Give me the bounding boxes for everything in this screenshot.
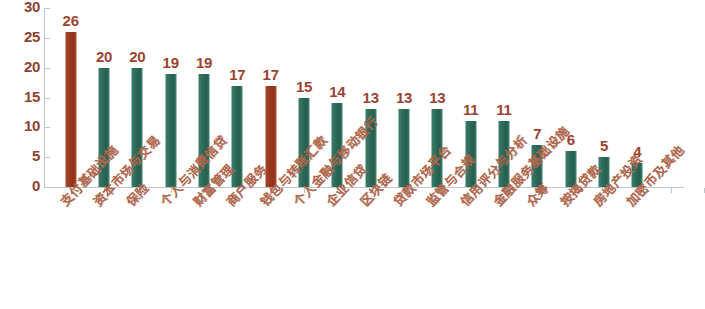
y-axis-tick-label: 5	[4, 148, 40, 164]
bar[interactable]	[398, 109, 409, 187]
bar-slot[interactable]: 11	[454, 8, 487, 187]
y-axis-tick-label: 15	[4, 89, 40, 105]
x-axis-tick-mark	[637, 188, 638, 193]
y-axis-tick-mark	[45, 187, 50, 188]
bar[interactable]	[432, 109, 443, 187]
bar[interactable]	[132, 68, 143, 187]
bar-value-label: 13	[363, 89, 379, 106]
x-axis-tick-mark	[204, 188, 205, 193]
x-axis-tick-mark	[71, 188, 72, 193]
bar[interactable]	[232, 86, 243, 187]
bar[interactable]	[332, 103, 343, 187]
bar-value-label: 20	[96, 48, 112, 65]
bar[interactable]	[298, 98, 309, 188]
bar-slot[interactable]: 6	[554, 8, 587, 187]
bar[interactable]	[632, 163, 643, 187]
x-axis-tick-mark	[671, 188, 672, 193]
x-axis-tick-mark	[237, 188, 238, 193]
bar-value-label: 13	[396, 89, 412, 106]
bar-slot[interactable]: 20	[87, 8, 120, 187]
y-axis-tick-label: 20	[4, 59, 40, 75]
bar-value-label: 17	[229, 66, 245, 83]
x-axis-tick-mark	[504, 188, 505, 193]
bar[interactable]	[65, 32, 76, 187]
x-axis-tick-mark	[137, 188, 138, 193]
x-axis-tick-mark	[604, 188, 605, 193]
x-axis-tick-mark	[304, 188, 305, 193]
bar-slot[interactable]: 13	[387, 8, 420, 187]
bar-slot[interactable]: 5	[587, 8, 620, 187]
bar-value-label: 4	[633, 143, 641, 160]
bar-value-label: 6	[567, 131, 575, 148]
y-axis-tick-label: 10	[4, 118, 40, 134]
bar-slot[interactable]: 13	[354, 8, 387, 187]
bar-value-label: 20	[129, 48, 145, 65]
bar-slot[interactable]: 26	[54, 8, 87, 187]
x-axis-tick-mark	[171, 188, 172, 193]
bar[interactable]	[465, 121, 476, 187]
x-axis-tick-mark	[571, 188, 572, 193]
bar-value-label: 11	[463, 101, 478, 118]
bar-slot[interactable]: 7	[521, 8, 554, 187]
bar[interactable]	[498, 121, 509, 187]
bar[interactable]	[98, 68, 109, 187]
x-axis-tick-mark	[337, 188, 338, 193]
x-axis-tick-mark	[104, 188, 105, 193]
bar-value-label: 19	[196, 54, 212, 71]
bar[interactable]	[198, 74, 209, 187]
x-axis-line	[44, 187, 684, 188]
x-axis-tick-mark	[437, 188, 438, 193]
bar[interactable]	[565, 151, 576, 187]
bar-slot[interactable]: 17	[254, 8, 287, 187]
bar-value-label: 26	[63, 12, 79, 29]
bar-value-label: 5	[600, 137, 608, 154]
bar-slot[interactable]: 15	[287, 8, 320, 187]
bar-slot[interactable]: 19	[187, 8, 220, 187]
x-axis-tick-mark	[271, 188, 272, 193]
y-axis-tick-label: 0	[4, 178, 40, 194]
y-axis-tick-label: 25	[4, 29, 40, 45]
bar-value-label: 17	[263, 66, 279, 83]
x-axis-tick-mark	[537, 188, 538, 193]
bar-slot[interactable]: 19	[154, 8, 187, 187]
bar-value-label: 19	[163, 54, 179, 71]
bar[interactable]	[265, 86, 276, 187]
x-axis-tick-mark	[371, 188, 372, 193]
bar-slot[interactable]: 14	[321, 8, 354, 187]
x-axis-tick-mark	[471, 188, 472, 193]
bar-value-label: 7	[533, 125, 541, 142]
plot-area: 26202019191717151413131311117654	[44, 8, 684, 187]
bar-value-label: 13	[429, 89, 445, 106]
bar-slot[interactable]: 11	[487, 8, 520, 187]
bar[interactable]	[598, 157, 609, 187]
bar[interactable]	[532, 145, 543, 187]
bar-value-label: 14	[329, 83, 345, 100]
x-axis-tick-mark	[404, 188, 405, 193]
bar[interactable]	[165, 74, 176, 187]
bar-slot[interactable]: 4	[621, 8, 654, 187]
bar-value-label: 15	[296, 78, 312, 95]
bar-slot[interactable]: 17	[221, 8, 254, 187]
y-axis-tick-label: 30	[4, 0, 40, 15]
bar-slot[interactable]: 13	[421, 8, 454, 187]
bar-value-label: 11	[496, 101, 511, 118]
bar-slot[interactable]: 20	[121, 8, 154, 187]
bar[interactable]	[365, 109, 376, 187]
